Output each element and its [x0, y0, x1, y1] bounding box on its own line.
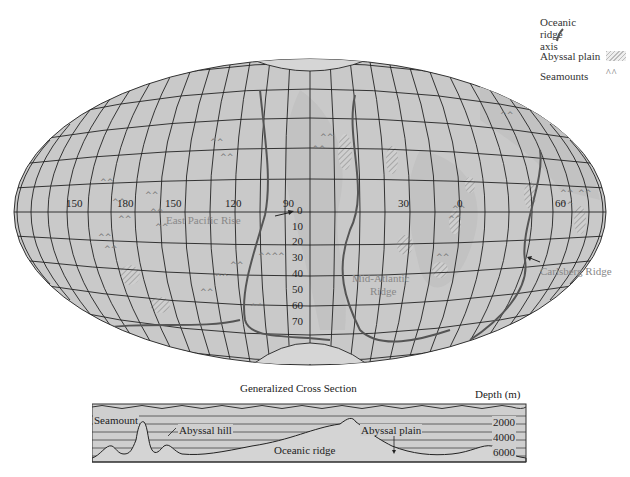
- world-ocean-floor-map: ^^^^^^ ^^^^^^ ^^^^ ^^^^^^^^ ^^^^ ^^^^ ^^…: [0, 0, 624, 380]
- latitude-label-30: 30: [292, 251, 303, 263]
- depth-tick-2000: 2000: [492, 416, 516, 428]
- abyssal-plain-label: Abyssal plain: [360, 424, 422, 436]
- svg-text:^^: ^^: [118, 215, 131, 224]
- longitude-label-60: 60: [555, 197, 566, 209]
- longitude-label-0: 0: [457, 197, 463, 209]
- svg-text:^^: ^^: [320, 133, 333, 142]
- svg-text:^^: ^^: [104, 245, 117, 254]
- longitude-label-180: 180: [117, 197, 134, 209]
- latitude-label-70: 70: [292, 315, 303, 327]
- carlsberg-ridge-label: Carlsberg Ridge: [540, 265, 612, 277]
- cross-section-title: Generalized Cross Section: [240, 382, 357, 394]
- mid-atlantic-ridge-label-2: Ridge: [370, 285, 396, 297]
- seamount-icon: ^^: [606, 67, 617, 78]
- latitude-label-40: 40: [292, 267, 303, 279]
- latitude-label-0: 0: [297, 204, 303, 216]
- svg-text:^^: ^^: [500, 111, 513, 120]
- longitude-label-150e: 150: [165, 197, 182, 209]
- latitude-label-20: 20: [292, 235, 303, 247]
- longitude-label-120: 120: [225, 197, 242, 209]
- latitude-label-50: 50: [292, 283, 303, 295]
- legend-seamounts-label: Seamounts: [540, 70, 588, 82]
- depth-axis-label: Depth (m): [475, 388, 521, 400]
- svg-text:^^: ^^: [100, 178, 113, 187]
- east-pacific-rise-label: East Pacific Rise: [166, 214, 241, 226]
- longitude-label-90: 90: [283, 197, 294, 209]
- svg-text:^^: ^^: [312, 145, 325, 154]
- mid-atlantic-ridge-label: Mid-Atlantic: [352, 272, 409, 284]
- abyssal-plain-hatch-icon: [606, 51, 626, 61]
- svg-text:^^: ^^: [210, 138, 223, 147]
- svg-text:^^: ^^: [200, 288, 213, 297]
- svg-text:^^: ^^: [250, 303, 263, 312]
- ridge-axis-icon: [555, 28, 565, 42]
- svg-text:^^: ^^: [448, 215, 461, 224]
- seamount-label: Seamount: [93, 414, 139, 426]
- longitude-label-150w: 150: [66, 197, 83, 209]
- svg-text:^^: ^^: [98, 233, 111, 242]
- depth-tick-6000: 6000: [492, 446, 516, 458]
- latitude-label-10: 10: [292, 220, 303, 232]
- legend-ridge-axis-label: Oceanic: [540, 16, 576, 28]
- svg-text:^^: ^^: [220, 153, 233, 162]
- svg-text:^^: ^^: [578, 189, 591, 198]
- svg-text:^^: ^^: [215, 273, 228, 282]
- svg-text:^^: ^^: [145, 191, 158, 200]
- svg-text:^^: ^^: [150, 208, 163, 217]
- longitude-label-30: 30: [398, 197, 409, 209]
- depth-tick-4000: 4000: [492, 431, 516, 443]
- svg-text:^^: ^^: [436, 253, 449, 262]
- oceanic-ridge-label: Oceanic ridge: [273, 444, 336, 456]
- svg-text:^^^^: ^^^^: [258, 252, 285, 261]
- latitude-label-60: 60: [292, 299, 303, 311]
- svg-text:^^: ^^: [230, 261, 243, 270]
- cross-section-profile: [92, 400, 528, 466]
- abyssal-hill-label: Abyssal hill: [178, 424, 233, 436]
